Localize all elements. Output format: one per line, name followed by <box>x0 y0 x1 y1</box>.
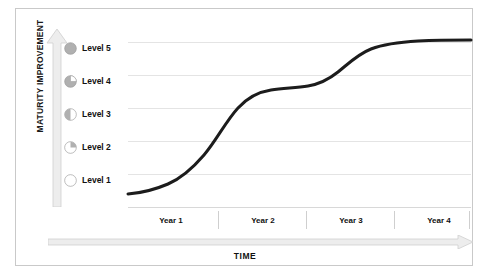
x-axis-label: TIME <box>16 251 474 261</box>
plot-area <box>128 29 471 205</box>
level-legend: Level 5 Level 4 Level 3 Level 2 <box>64 37 136 209</box>
year-axis: Year 1 Year 2 Year 3 Year 4 <box>128 207 471 231</box>
legend-item-level-5: Level 5 <box>64 39 111 57</box>
year-axis-topline <box>128 207 471 208</box>
pie-half-icon <box>64 108 77 121</box>
pie-three-quarter-icon <box>64 75 77 88</box>
x-axis-arrow-icon <box>48 235 474 249</box>
year-divider-3 <box>394 211 395 229</box>
legend-label-level-5: Level 5 <box>82 43 111 53</box>
year-divider-1 <box>218 211 219 229</box>
year-divider-2 <box>306 211 307 229</box>
legend-label-level-2: Level 2 <box>82 142 111 152</box>
year-cell-2: Year 2 <box>220 210 306 230</box>
chart-frame: MATURITY IMPROVEMENT Level 5 Level 4 Le <box>15 8 473 266</box>
year-label-1: Year 1 <box>159 216 183 225</box>
year-label-2: Year 2 <box>251 216 275 225</box>
legend-item-level-4: Level 4 <box>64 72 111 90</box>
legend-label-level-4: Level 4 <box>82 76 111 86</box>
year-cell-1: Year 1 <box>128 210 214 230</box>
pie-quarter-icon <box>64 141 77 154</box>
legend-item-level-1: Level 1 <box>64 171 111 189</box>
legend-item-level-2: Level 2 <box>64 138 111 156</box>
year-label-4: Year 4 <box>427 216 451 225</box>
pie-full-icon <box>64 42 77 55</box>
time-arrow-wrap <box>48 235 474 249</box>
year-label-3: Year 3 <box>339 216 363 225</box>
pie-empty-icon <box>64 174 77 187</box>
year-cell-3: Year 3 <box>308 210 394 230</box>
year-divider-4 <box>469 211 470 229</box>
legend-label-level-1: Level 1 <box>82 175 111 185</box>
y-axis-label: MATURITY IMPROVEMENT <box>35 0 45 156</box>
legend-item-level-3: Level 3 <box>64 105 111 123</box>
legend-label-level-3: Level 3 <box>82 109 111 119</box>
maturity-curve <box>128 29 471 205</box>
